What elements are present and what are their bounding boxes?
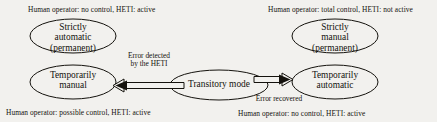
node-label-strictly-automatic: Strictly automatic (permanent) (32, 22, 114, 53)
diagram-canvas: Human operator: no control, HETI: active… (0, 0, 437, 122)
node-line-3: (permanent) (32, 43, 114, 53)
caption-bottom-right: Human operator: no control, HETI: active (238, 110, 365, 118)
node-label-transitory-mode: Transitory mode (176, 79, 262, 89)
diagram-text-layer: Human operator: no control, HETI: active… (0, 0, 437, 122)
node-line-1: Strictly (32, 22, 114, 32)
edge-label-error-recovered: Error recovered (245, 95, 313, 103)
node-line-1: Strictly (294, 22, 376, 32)
node-line-1: Temporarily (32, 70, 114, 80)
node-line-3: (permanent) (294, 43, 376, 53)
node-line-2: automatic (32, 32, 114, 42)
node-line-1: Temporarily (294, 70, 376, 80)
node-label-strictly-manual: Strictly manual (permanent) (294, 22, 376, 53)
caption-top-left: Human operator: no control, HETI: active (28, 6, 155, 14)
node-line-1: Transitory mode (176, 79, 262, 89)
node-line-2: automatic (294, 80, 376, 90)
node-label-temporarily-automatic: Temporarily automatic (294, 70, 376, 91)
caption-bottom-left: Human operator: possible control, HETI: … (6, 109, 151, 117)
node-label-temporarily-manual: Temporarily manual (32, 70, 114, 91)
edge-line-2: by the HETI (113, 60, 185, 68)
node-line-2: manual (294, 32, 376, 42)
edge-label-error-detected: Error detected by the HETI (113, 52, 185, 69)
caption-top-right: Human operator: total control, HETI: not… (268, 6, 413, 14)
node-line-2: manual (32, 80, 114, 90)
edge-line-1: Error recovered (245, 95, 313, 103)
